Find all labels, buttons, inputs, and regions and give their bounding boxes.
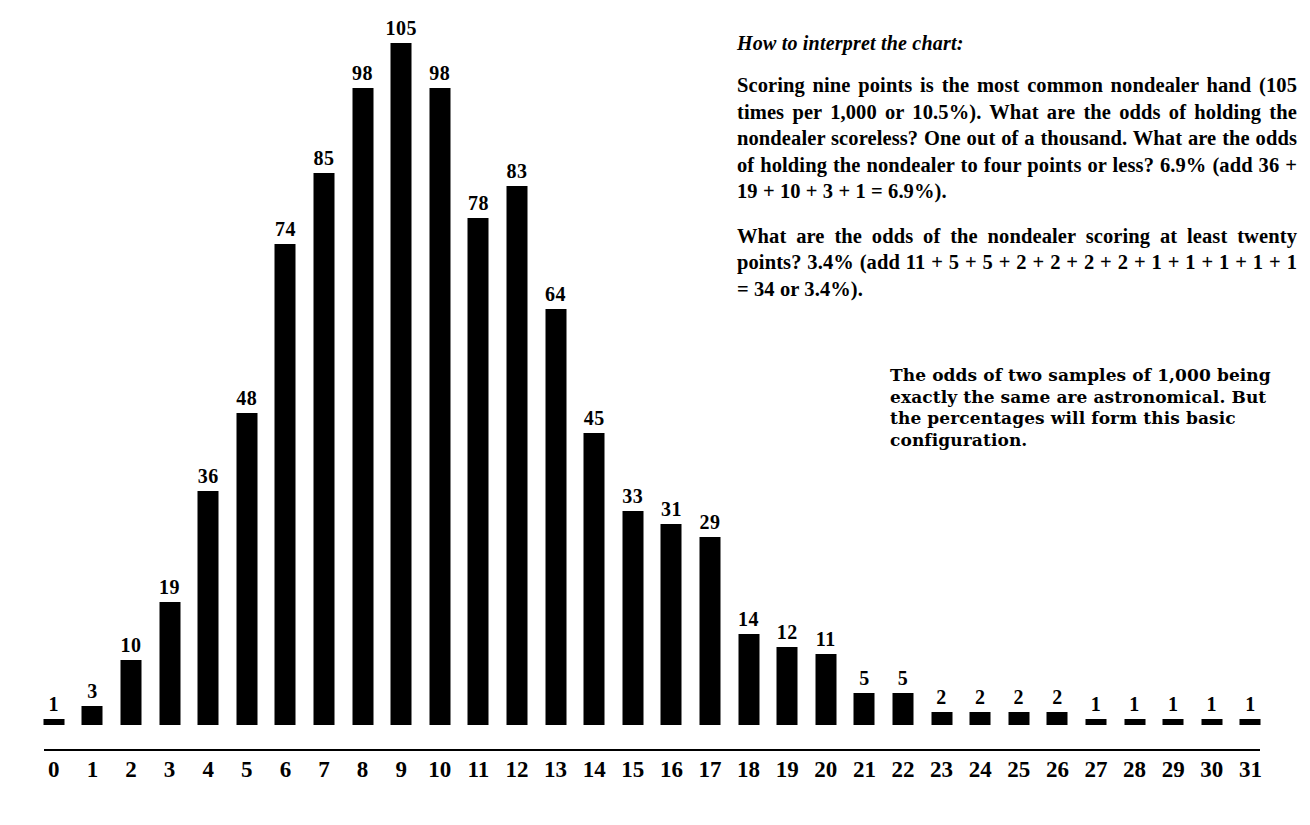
bar-value-label: 2 [1038, 687, 1077, 707]
bar-value-label: 31 [652, 499, 691, 519]
x-tick-label: 5 [228, 758, 267, 782]
bar-rect [545, 309, 566, 725]
bar-rect [1201, 719, 1222, 725]
bar-value-label: 33 [614, 486, 653, 506]
x-tick-label: 13 [536, 758, 575, 782]
bar-value-label: 98 [343, 63, 382, 83]
bar-value-label: 36 [189, 466, 228, 486]
bar-value-label: 11 [807, 629, 846, 649]
bar-column: 1 [35, 719, 74, 725]
bar-column: 45 [575, 433, 614, 725]
bar-rect [699, 537, 720, 725]
x-tick-label: 2 [112, 758, 151, 782]
x-tick-label: 23 [922, 758, 961, 782]
x-tick-label: 20 [807, 758, 846, 782]
bar-column: 12 [768, 647, 807, 725]
bar-value-label: 105 [382, 18, 421, 38]
bar-value-label: 1 [1077, 694, 1116, 714]
bar-column: 1 [1231, 719, 1270, 725]
bar-value-label: 5 [884, 668, 923, 688]
bar-rect [738, 634, 759, 725]
bar-column: 98 [343, 88, 382, 725]
x-tick-label: 27 [1077, 758, 1116, 782]
notes-paragraph-1: Scoring nine points is the most common n… [737, 72, 1297, 205]
bar-value-label: 2 [922, 687, 961, 707]
bar-rect [854, 693, 875, 725]
bar-value-label: 1 [35, 694, 74, 714]
bar-value-label: 78 [459, 193, 498, 213]
x-tick-label: 30 [1193, 758, 1232, 782]
x-tick-label: 26 [1038, 758, 1077, 782]
bar-column: 105 [382, 43, 421, 725]
bar-column: 2 [1038, 712, 1077, 725]
x-tick-label: 7 [305, 758, 344, 782]
bar-rect [1008, 712, 1029, 725]
bar-column: 29 [691, 537, 730, 725]
bar-value-label: 2 [1000, 687, 1039, 707]
bar-value-label: 12 [768, 622, 807, 642]
bar-rect [120, 660, 141, 725]
x-tick-label: 0 [35, 758, 74, 782]
bar-column: 74 [266, 244, 305, 725]
bar-column: 19 [150, 602, 189, 725]
bar-rect [1240, 719, 1261, 725]
bar-column: 98 [421, 88, 460, 725]
x-tick-label: 8 [343, 758, 382, 782]
bar-column: 1 [1115, 719, 1154, 725]
bar-column: 2 [922, 712, 961, 725]
x-tick-label: 16 [652, 758, 691, 782]
x-tick-label: 31 [1231, 758, 1270, 782]
chart-page: 1310193648748598105987883644533312914121… [0, 0, 1310, 825]
bar-value-label: 1 [1115, 694, 1154, 714]
bar-rect [82, 706, 103, 725]
bar-value-label: 64 [536, 284, 575, 304]
interpretation-notes: How to interpret the chart: Scoring nine… [737, 30, 1297, 320]
bar-column: 33 [614, 511, 653, 725]
bar-value-label: 19 [150, 577, 189, 597]
x-tick-label: 25 [1000, 758, 1039, 782]
bar-rect [468, 218, 489, 725]
bar-rect [159, 602, 180, 725]
bar-column: 1 [1193, 719, 1232, 725]
bar-rect [506, 186, 527, 725]
bar-column: 36 [189, 491, 228, 725]
bar-rect [1085, 719, 1106, 725]
x-tick-label: 17 [691, 758, 730, 782]
x-tick-label: 22 [884, 758, 923, 782]
bar-rect [429, 88, 450, 725]
bar-rect [236, 413, 257, 725]
bar-value-label: 98 [421, 63, 460, 83]
bar-rect [584, 433, 605, 725]
bar-rect [1124, 719, 1145, 725]
bar-value-label: 1 [1193, 694, 1232, 714]
bar-value-label: 29 [691, 512, 730, 532]
bar-column: 1 [1077, 719, 1116, 725]
bar-column: 5 [845, 693, 884, 725]
bar-column: 1 [1154, 719, 1193, 725]
sampling-footnote: The odds of two samples of 1,000 being e… [890, 365, 1290, 451]
bar-value-label: 5 [845, 668, 884, 688]
x-tick-label: 21 [845, 758, 884, 782]
x-tick-label: 10 [421, 758, 460, 782]
bar-rect [622, 511, 643, 725]
bar-value-label: 85 [305, 148, 344, 168]
bar-rect [815, 654, 836, 725]
bar-value-label: 14 [729, 609, 768, 629]
bar-value-label: 2 [961, 687, 1000, 707]
bar-rect [970, 712, 991, 725]
bar-rect [391, 43, 412, 725]
bar-rect [777, 647, 798, 725]
notes-paragraph-2: What are the odds of the nondealer scori… [737, 223, 1297, 303]
x-tick-label: 12 [498, 758, 537, 782]
bar-column: 64 [536, 309, 575, 725]
x-tick-label: 14 [575, 758, 614, 782]
x-tick-label: 29 [1154, 758, 1193, 782]
bar-value-label: 74 [266, 219, 305, 239]
x-tick-label: 4 [189, 758, 228, 782]
bar-column: 85 [305, 173, 344, 725]
x-tick-label: 9 [382, 758, 421, 782]
bar-column: 2 [961, 712, 1000, 725]
bar-value-label: 83 [498, 161, 537, 181]
bar-rect [198, 491, 219, 725]
bar-value-label: 45 [575, 408, 614, 428]
